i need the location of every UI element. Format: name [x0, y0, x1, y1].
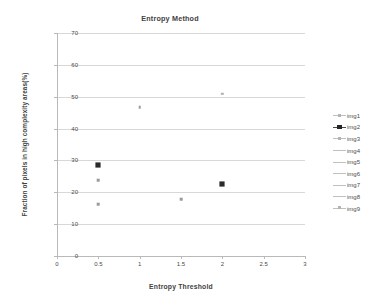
legend-line-icon [333, 150, 346, 151]
legend-swatch-img1-icon [333, 111, 346, 120]
legend-item-img3[interactable]: img3 [333, 133, 387, 145]
legend-item-img8[interactable]: img8 [333, 191, 387, 203]
legend-line-icon [333, 173, 346, 174]
x-tick-label-3: 3 [293, 261, 317, 267]
legend-marker-icon [338, 206, 341, 209]
y-tick-label-0: 0 [62, 253, 78, 259]
legend-swatch-img3-icon [333, 134, 346, 143]
gridline-y-20 [57, 192, 305, 193]
y-tick-label-20: 20 [62, 189, 78, 195]
x-tick-label-1.5: 1.5 [169, 261, 193, 267]
legend-label: img6 [347, 171, 360, 177]
data-point-img2-0[interactable] [96, 163, 100, 167]
legend-swatch-img4-icon [333, 146, 346, 155]
legend-swatch-img5-icon [333, 158, 346, 167]
entropy-method-chart: Entropy Method Fraction of pixels in hig… [0, 0, 387, 307]
y-tick-label-40: 40 [62, 126, 78, 132]
legend-item-img6[interactable]: img6 [333, 168, 387, 180]
x-tick-label-2.5: 2.5 [252, 261, 276, 267]
legend-label: img4 [347, 148, 360, 154]
legend-marker-icon [338, 137, 341, 140]
legend-label: img9 [347, 206, 360, 212]
gridline-y-40 [57, 129, 305, 130]
gridline-y-50 [57, 97, 305, 98]
data-point-img2-6[interactable] [220, 182, 224, 186]
data-point-img3-1[interactable] [97, 179, 100, 182]
gridline-y-70 [57, 33, 305, 34]
x-tick-label-2: 2 [210, 261, 234, 267]
legend-label: img8 [347, 194, 360, 200]
legend-item-img4[interactable]: img4 [333, 145, 387, 157]
legend-swatch-img6-icon [333, 169, 346, 178]
legend-item-img2[interactable]: img2 [333, 122, 387, 134]
data-point-img5-3[interactable] [138, 106, 141, 109]
y-axis-line [57, 33, 58, 256]
y-axis-title: Fraction of pixels in high complexity ar… [21, 33, 35, 256]
legend-label: img7 [347, 182, 360, 188]
legend-label: img2 [347, 124, 360, 130]
legend-item-img7[interactable]: img7 [333, 180, 387, 192]
legend-marker-icon [338, 114, 341, 117]
legend-swatch-img7-icon [333, 181, 346, 190]
y-tick-label-10: 10 [62, 221, 78, 227]
legend-item-img5[interactable]: img5 [333, 156, 387, 168]
gridline-y-60 [57, 65, 305, 66]
x-tick-mark-3 [305, 256, 306, 259]
x-axis-line [57, 256, 305, 257]
x-axis-title: Entropy Threshold [57, 283, 305, 290]
legend-line-icon [333, 185, 346, 186]
legend-label: img5 [347, 159, 360, 165]
x-tick-label-1: 1 [128, 261, 152, 267]
y-tick-label-60: 60 [62, 62, 78, 68]
legend-line-icon [333, 196, 346, 197]
legend-label: img3 [347, 136, 360, 142]
legend-label: img1 [347, 113, 360, 119]
x-tick-label-0: 0 [45, 261, 69, 267]
plot-area [57, 33, 305, 256]
legend-swatch-img8-icon [333, 192, 346, 201]
legend-item-img9[interactable]: img9 [333, 203, 387, 215]
gridline-y-10 [57, 224, 305, 225]
data-point-img6-4[interactable] [180, 198, 183, 201]
y-tick-label-70: 70 [62, 30, 78, 36]
chart-title: Entropy Method [0, 14, 340, 23]
gridline-y-30 [57, 160, 305, 161]
y-tick-label-30: 30 [62, 157, 78, 163]
chart-legend: img1img2img3img4img5img6img7img8img9 [333, 110, 387, 214]
legend-line-icon [333, 162, 346, 163]
data-point-img4-2[interactable] [97, 203, 100, 206]
legend-marker-icon [337, 125, 341, 129]
legend-swatch-img9-icon [333, 204, 346, 213]
x-tick-label-0.5: 0.5 [86, 261, 110, 267]
legend-item-img1[interactable]: img1 [333, 110, 387, 122]
y-tick-label-50: 50 [62, 94, 78, 100]
data-point-img7-5[interactable] [221, 92, 223, 94]
legend-swatch-img2-icon [333, 123, 346, 132]
